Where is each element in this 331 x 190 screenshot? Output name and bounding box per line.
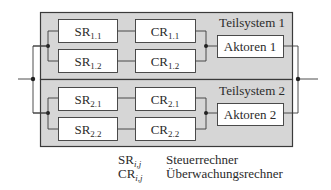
system-output-junction [296,77,300,81]
legend-sr-description: Steuerrechner [166,152,239,167]
subsystem-1-output-junction [204,44,208,48]
redundancy-diagram: Teilsystem 1 SR1.1 SR1.2 CR1.1 CR1.2 Akt… [0,0,331,190]
legend: SRi,j Steuerrechner CRi,j Überwachungsre… [118,152,284,183]
legend-cr-description: Überwachungsrechner [166,166,284,181]
subsystem-2-output-junction [204,111,208,115]
system-input-junction [31,77,35,81]
aktoren-2-label: Aktoren 2 [224,107,276,122]
subsystem-1-title: Teilsystem 1 [219,15,285,30]
subsystem-2-title: Teilsystem 2 [219,83,285,98]
aktoren-1-label: Aktoren 1 [224,39,276,54]
